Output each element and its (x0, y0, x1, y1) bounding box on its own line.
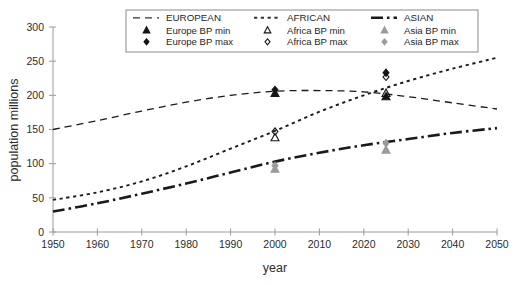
y-tick-label: 100 (26, 157, 44, 169)
y-tick-label: 150 (26, 123, 44, 135)
y-axis-title: population millions (7, 79, 21, 182)
x-tick-label: 2030 (397, 238, 421, 250)
x-tick-label: 2050 (485, 238, 509, 250)
legend-content: EUROPEANEurope BP minEurope BP maxAFRICA… (133, 12, 459, 47)
y-tick-label: 200 (26, 89, 44, 101)
x-tick-label: 2010 (308, 238, 332, 250)
legend-entry-label: Asia BP max (404, 36, 459, 47)
legend-header: ASIAN (404, 12, 433, 23)
legend-entry-label: Europe BP max (166, 36, 233, 47)
y-tick-label: 50 (32, 192, 44, 204)
legend-entry-label: Asia BP min (404, 25, 456, 36)
x-tick-label: 2020 (352, 238, 376, 250)
chart-legend: EUROPEANEurope BP minEurope BP maxAFRICA… (126, 10, 478, 52)
x-tick-label: 1950 (41, 238, 65, 250)
x-tick-label: 2040 (441, 238, 465, 250)
x-axis-title: year (263, 261, 287, 275)
x-tick-label: 1960 (86, 238, 110, 250)
x-tick-label: 1990 (219, 238, 243, 250)
y-tick-label: 300 (26, 21, 44, 33)
x-tick-label: 1980 (175, 238, 199, 250)
legend-entry-label: Europe BP min (166, 25, 230, 36)
legend-entry-label: Africa BP min (287, 25, 345, 36)
x-tick-label: 1970 (130, 238, 154, 250)
chart-svg: 050100150200250300 195019601970198019902… (0, 0, 514, 285)
y-tick-label: 0 (38, 226, 44, 238)
x-tick-label: 2000 (263, 238, 287, 250)
y-tick-label: 250 (26, 55, 44, 67)
legend-header: EUROPEAN (166, 12, 221, 23)
legend-entry-label: Africa BP max (287, 36, 348, 47)
legend-header: AFRICAN (287, 12, 330, 23)
chart-figure: 050100150200250300 195019601970198019902… (0, 0, 514, 285)
